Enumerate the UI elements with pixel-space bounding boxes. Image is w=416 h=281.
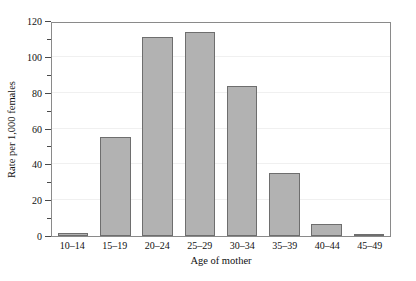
x-axis-tick-label: 10–14 — [51, 238, 94, 256]
x-axis-tick-label: 25–29 — [179, 238, 222, 256]
bar — [142, 37, 172, 236]
bar — [58, 233, 88, 236]
bar-slot — [52, 23, 94, 236]
bar-slot — [94, 23, 136, 236]
bar-slot — [263, 23, 305, 236]
x-axis: 10–1415–1920–2425–2930–3435–3940–4445–49 — [51, 238, 391, 256]
y-axis-tick-label: 40 — [32, 160, 42, 170]
y-axis-tick-label: 120 — [27, 17, 42, 27]
bar — [311, 224, 341, 236]
x-axis-tick-label: 20–24 — [136, 238, 179, 256]
bar-series — [52, 23, 390, 236]
x-axis-tick-label: 45–49 — [349, 238, 392, 256]
bar-slot — [137, 23, 179, 236]
bar — [354, 234, 384, 236]
y-axis-tick-label: 100 — [27, 53, 42, 63]
x-axis-title: Age of mother — [51, 255, 391, 266]
y-axis: 020406080100120 — [0, 22, 51, 237]
bar-slot — [348, 23, 390, 236]
bar-chart-figure: Rate per 1,000 females 020406080100120 1… — [0, 0, 416, 281]
x-axis-tick-label: 30–34 — [221, 238, 264, 256]
x-axis-tick-label: 40–44 — [306, 238, 349, 256]
bar — [269, 173, 299, 236]
x-axis-tick-label: 15–19 — [94, 238, 137, 256]
plot-area — [51, 22, 391, 237]
y-axis-tick-label: 0 — [37, 232, 42, 242]
bar — [100, 137, 130, 236]
bar — [227, 86, 257, 237]
y-axis-tick-label: 20 — [32, 196, 42, 206]
bar — [185, 32, 215, 236]
x-axis-tick-label: 35–39 — [264, 238, 307, 256]
bar-slot — [221, 23, 263, 236]
y-axis-tick-label: 60 — [32, 125, 42, 135]
bar-slot — [179, 23, 221, 236]
bar-slot — [306, 23, 348, 236]
y-axis-tick-label: 80 — [32, 89, 42, 99]
